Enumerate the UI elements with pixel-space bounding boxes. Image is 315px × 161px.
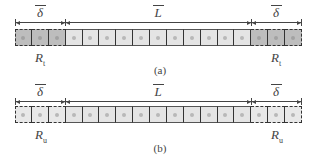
boundary-cell	[49, 29, 66, 46]
node-dot	[257, 113, 261, 117]
interior-cell	[66, 29, 83, 46]
boundary-cell	[251, 29, 268, 46]
node-dot	[291, 113, 295, 117]
node-dot	[38, 113, 42, 117]
cell-row-a	[15, 29, 302, 46]
node-dot	[291, 36, 295, 40]
node-dot	[105, 113, 109, 117]
node-dot	[240, 36, 244, 40]
region-label-right: Rt	[271, 50, 281, 68]
arrow-right-icon	[61, 100, 65, 104]
interior-cell	[184, 106, 201, 123]
panel-b: δ L δ Ru Ru (b)	[0, 79, 315, 161]
node-dot	[72, 113, 76, 117]
node-dot	[173, 36, 177, 40]
arrow-right-icon	[297, 21, 301, 25]
region-label-left: Ru	[35, 127, 47, 145]
node-dot	[21, 36, 25, 40]
interior-cell	[218, 29, 235, 46]
boundary-cell	[251, 106, 268, 123]
dimension-line	[15, 101, 302, 102]
node-dot	[72, 36, 76, 40]
arrow-right-icon	[247, 100, 251, 104]
cell-row-b	[15, 106, 302, 123]
node-dot	[207, 36, 211, 40]
node-dot	[105, 36, 109, 40]
boundary-cell	[285, 29, 302, 46]
node-dot	[55, 113, 59, 117]
caption-a: (a)	[140, 64, 180, 76]
interior-cell	[201, 106, 218, 123]
delta-bar-label-right: δ	[266, 85, 286, 98]
node-dot	[139, 113, 143, 117]
node-dot	[173, 113, 177, 117]
interior-cell	[167, 29, 184, 46]
node-dot	[257, 36, 261, 40]
node-dot	[240, 113, 244, 117]
node-dot	[207, 113, 211, 117]
caption-b: (b)	[140, 142, 180, 154]
node-dot	[88, 36, 92, 40]
boundary-cell	[32, 29, 49, 46]
interior-cell	[133, 106, 150, 123]
interior-cell	[184, 29, 201, 46]
interior-cell	[116, 106, 133, 123]
interior-cell	[218, 106, 235, 123]
boundary-cell	[268, 106, 285, 123]
region-label-left: Rt	[35, 50, 45, 68]
interior-cell	[66, 106, 83, 123]
arrow-left-icon	[252, 100, 256, 104]
node-dot	[223, 36, 227, 40]
arrow-right-icon	[297, 100, 301, 104]
interior-cell	[83, 29, 100, 46]
node-dot	[190, 113, 194, 117]
dimension-line	[15, 22, 302, 23]
interior-cell	[133, 29, 150, 46]
node-dot	[122, 113, 126, 117]
interior-cell	[99, 106, 116, 123]
interior-cell	[234, 106, 251, 123]
node-dot	[55, 36, 59, 40]
node-dot	[274, 113, 278, 117]
interior-cell	[150, 29, 167, 46]
node-dot	[156, 113, 160, 117]
interior-cell	[99, 29, 116, 46]
interior-cell	[150, 106, 167, 123]
boundary-cell	[32, 106, 49, 123]
node-dot	[274, 36, 278, 40]
interior-cell	[116, 29, 133, 46]
l-bar-label: L	[148, 85, 168, 98]
interior-cell	[167, 106, 184, 123]
arrow-left-icon	[16, 21, 20, 25]
arrow-left-icon	[252, 21, 256, 25]
region-label-right: Ru	[271, 127, 283, 145]
delta-bar-label-left: δ	[30, 85, 50, 98]
interior-cell	[83, 106, 100, 123]
node-dot	[190, 36, 194, 40]
node-dot	[223, 113, 227, 117]
delta-bar-label-left: δ	[30, 6, 50, 19]
panel-a: δ L δ Rt Rt (a)	[0, 0, 315, 80]
boundary-cell	[15, 106, 32, 123]
arrow-left-icon	[66, 100, 70, 104]
boundary-cell	[285, 106, 302, 123]
node-dot	[88, 113, 92, 117]
arrow-right-icon	[247, 21, 251, 25]
l-bar-label: L	[148, 6, 168, 19]
interior-cell	[201, 29, 218, 46]
boundary-cell	[268, 29, 285, 46]
interior-cell	[234, 29, 251, 46]
boundary-cell	[49, 106, 66, 123]
node-dot	[38, 36, 42, 40]
node-dot	[139, 36, 143, 40]
boundary-cell	[15, 29, 32, 46]
arrow-right-icon	[61, 21, 65, 25]
node-dot	[122, 36, 126, 40]
arrow-left-icon	[66, 21, 70, 25]
arrow-left-icon	[16, 100, 20, 104]
delta-bar-label-right: δ	[266, 6, 286, 19]
node-dot	[156, 36, 160, 40]
node-dot	[21, 113, 25, 117]
